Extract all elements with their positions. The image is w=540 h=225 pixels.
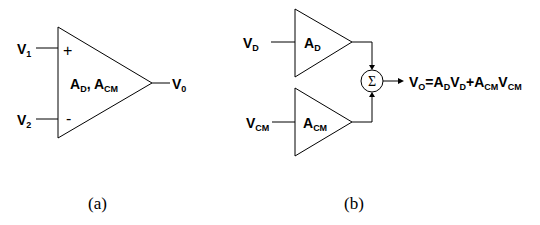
sigma-icon: Σ <box>368 74 376 89</box>
input-label-v1: V1 <box>17 41 31 59</box>
gain-label-acm: ACM <box>303 115 327 133</box>
output-equation: VO=ADVD+ACMVCM <box>409 74 522 92</box>
input-label-vcm: VCM <box>246 115 269 133</box>
arrowhead-right-icon <box>398 78 404 84</box>
plus-sign: + <box>63 42 72 59</box>
diagram-canvas: V1 V2 + - AD, ACM V0 (a) VD AD VCM ACM Σ… <box>0 0 540 225</box>
diagram-a: V1 V2 + - AD, ACM V0 (a) <box>17 27 186 213</box>
gain-label: AD, ACM <box>70 76 118 94</box>
figure: V1 V2 + - AD, ACM V0 (a) VD AD VCM ACM Σ… <box>0 0 540 225</box>
gain-label-ad: AD <box>304 35 321 53</box>
caption-b: (b) <box>344 194 364 213</box>
caption-a: (a) <box>88 194 107 213</box>
arrowhead-down-icon <box>369 65 375 70</box>
input-label-v2: V2 <box>17 112 31 130</box>
diagram-b: VD AD VCM ACM Σ VO=ADVD+ACMVCM (b) <box>243 9 522 213</box>
wire-ad-to-sum <box>352 42 372 67</box>
arrowhead-up-icon <box>369 92 375 97</box>
minus-sign: - <box>66 110 71 127</box>
wire-acm-to-sum <box>352 95 372 122</box>
output-label-v0: V0 <box>172 76 186 94</box>
input-label-vd: VD <box>243 35 259 53</box>
